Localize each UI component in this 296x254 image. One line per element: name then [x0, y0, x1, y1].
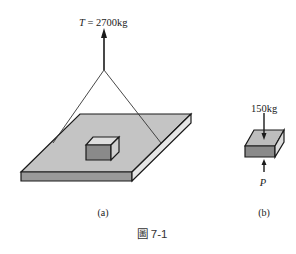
reaction-arrowhead-icon: [262, 159, 267, 165]
panel-a: T = 2700kg (a): [21, 17, 191, 219]
panel-a-label: (a): [97, 207, 108, 219]
load-label: 150kg: [251, 103, 278, 114]
fb-box-front-face: [245, 146, 275, 157]
reaction-label: P: [259, 177, 267, 188]
plate-front-face: [21, 172, 132, 181]
panel-b-label: (b): [258, 207, 270, 219]
box-on-plate: [86, 137, 119, 160]
figure-caption: 圖 7-1: [137, 228, 168, 240]
panel-b: 150kg P (b): [245, 103, 284, 219]
figure-canvas: T = 2700kg (a) 150kg P (b) 圖 7-1: [0, 0, 296, 254]
tension-arrowhead-icon: [101, 28, 107, 38]
box-front-face: [86, 145, 111, 160]
tension-label: T = 2700kg: [79, 17, 128, 28]
